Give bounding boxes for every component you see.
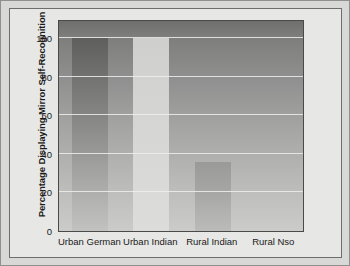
x-tick-label-rural-nso: Rural Nso [243,236,305,247]
bar-urban-german [72,38,108,231]
y-tick-label-40: 40 [10,150,52,160]
x-tick-label-urban-indian: Urban Indian [120,236,182,247]
x-tick-label-urban-german: Urban German [58,236,120,247]
bar-urban-indian [133,38,169,231]
y-tick-label-80: 80 [10,73,52,83]
plot-area [58,20,304,232]
y-tick-label-0: 0 [10,227,52,237]
y-tick-label-100: 100 [10,34,52,44]
figure-outer-frame: Percentage Displaying Mirror Self-Recogn… [0,0,350,266]
bar-chart: Percentage Displaying Mirror Self-Recogn… [10,9,341,257]
bar-rural-indian [195,162,231,231]
x-tick-label-rural-indian: Rural Indian [181,236,243,247]
figure-inner-frame: Percentage Displaying Mirror Self-Recogn… [9,8,342,258]
y-tick-label-60: 60 [10,111,52,121]
y-tick-label-20: 20 [10,188,52,198]
bar-rural-nso [256,117,292,231]
